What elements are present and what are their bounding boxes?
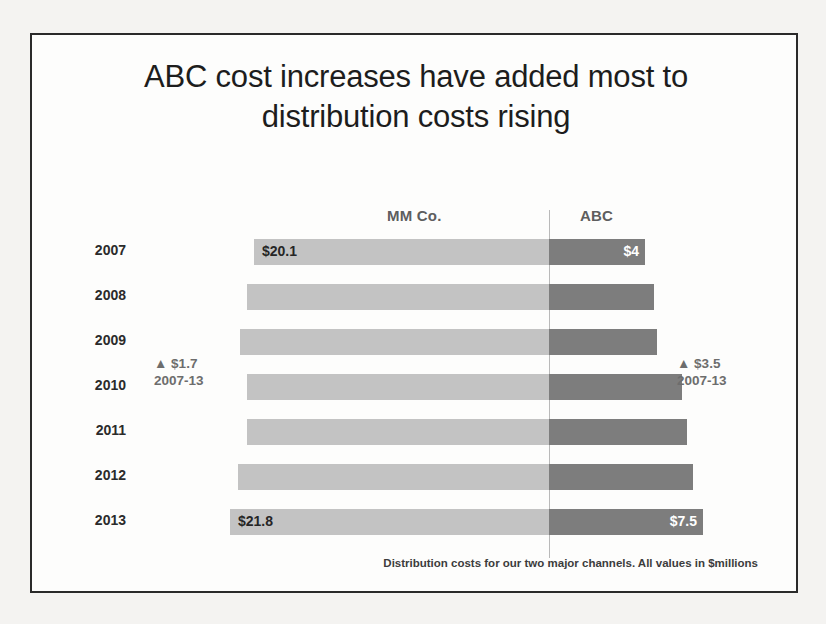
year-label: 2012 bbox=[60, 467, 126, 483]
bar-mm-co bbox=[247, 284, 549, 310]
slide-frame: ABC cost increases have added most to di… bbox=[30, 33, 798, 593]
annotation-abc-delta-value: ▲ $3.5 bbox=[677, 355, 727, 372]
bar-abc bbox=[549, 284, 654, 310]
footnote: Distribution costs for our two major cha… bbox=[383, 557, 758, 569]
year-label: 2007 bbox=[60, 242, 126, 258]
bar-mm-co bbox=[240, 329, 549, 355]
year-label: 2010 bbox=[60, 377, 126, 393]
bar-abc bbox=[549, 374, 682, 400]
annotation-abc-delta: ▲ $3.5 2007-13 bbox=[677, 355, 727, 389]
column-header-mm-co: MM Co. bbox=[387, 207, 442, 224]
chart-row: 2007$20.1$4 bbox=[32, 239, 796, 265]
bar-label-abc: $4 bbox=[609, 243, 639, 259]
annotation-mm-co-delta-span: 2007-13 bbox=[154, 372, 204, 389]
chart-row: 2012 bbox=[32, 464, 796, 490]
bar-label-mm-co: $20.1 bbox=[262, 243, 297, 259]
bar-mm-co bbox=[238, 464, 549, 490]
bar-mm-co bbox=[230, 509, 549, 535]
column-header-abc: ABC bbox=[580, 207, 613, 224]
bar-mm-co bbox=[254, 239, 549, 265]
year-label: 2008 bbox=[60, 287, 126, 303]
bar-mm-co bbox=[247, 419, 549, 445]
bar-abc bbox=[549, 329, 657, 355]
year-label: 2013 bbox=[60, 512, 126, 528]
annotation-mm-co-delta: ▲ $1.7 2007-13 bbox=[154, 355, 204, 389]
chart-row: 2008 bbox=[32, 284, 796, 310]
tornado-bar-chart: MM Co. ABC 2007$20.1$4200820092010201120… bbox=[32, 35, 796, 591]
year-label: 2011 bbox=[60, 422, 126, 438]
bar-abc bbox=[549, 419, 687, 445]
annotation-mm-co-delta-value: ▲ $1.7 bbox=[154, 355, 204, 372]
year-label: 2009 bbox=[60, 332, 126, 348]
chart-row: 2011 bbox=[32, 419, 796, 445]
bar-label-abc: $7.5 bbox=[667, 513, 697, 529]
annotation-abc-delta-span: 2007-13 bbox=[677, 372, 727, 389]
chart-row: 2009 bbox=[32, 329, 796, 355]
bar-abc bbox=[549, 464, 693, 490]
chart-row: 2013$21.8$7.5 bbox=[32, 509, 796, 535]
bar-label-mm-co: $21.8 bbox=[238, 513, 273, 529]
bar-mm-co bbox=[247, 374, 549, 400]
